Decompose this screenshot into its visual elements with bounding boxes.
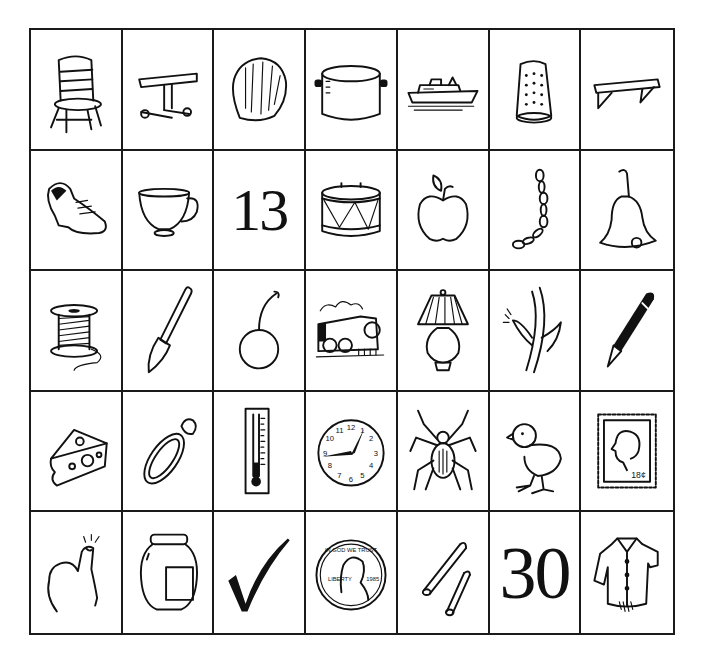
cup-icon [129,162,207,258]
bench-icon [129,41,207,137]
stamp-icon: 18¢ [588,403,666,499]
apple-icon [404,162,482,258]
ship-icon [404,41,482,137]
pot-icon [312,41,390,137]
cell-number-30: 30 [490,512,582,633]
cell-clock: 1212 345 678 91011 [306,392,398,513]
svg-text:12: 12 [347,423,356,432]
cell-spool [31,271,123,392]
cell-number-13: 13 [214,151,306,272]
cell-bell [581,151,673,272]
shirt-icon [588,525,666,621]
stamp-value: 18¢ [631,470,646,480]
cell-bench [123,30,215,151]
cell-ring [123,392,215,513]
cell-shelf [581,30,673,151]
cell-chair [31,30,123,151]
cell-spider [398,392,490,513]
shelf-icon [588,41,666,137]
svg-text:6: 6 [349,475,353,484]
picture-grid: 13 [29,28,675,635]
cell-shirt [581,512,673,633]
ring-icon [129,403,207,499]
cell-chain [490,151,582,272]
cell-cup [123,151,215,272]
svg-text:11: 11 [335,426,343,435]
jar-icon [129,525,207,621]
cell-lamp [398,271,490,392]
cell-drum [306,151,398,272]
cell-pen [581,271,673,392]
chick-icon [495,403,573,499]
cell-thumb [31,512,123,633]
spider-icon [404,403,482,499]
svg-text:2: 2 [369,434,373,443]
cell-shell [214,30,306,151]
svg-text:3: 3 [374,449,378,458]
cell-thermometer [214,392,306,513]
shovel-icon [129,282,207,378]
thorn-icon [495,282,573,378]
cell-thimble [490,30,582,151]
svg-text:1: 1 [360,426,364,435]
cherry-icon [220,282,298,378]
thermometer-icon [220,403,298,499]
drum-icon [312,162,390,258]
shoe-icon [37,162,115,258]
cell-apple [398,151,490,272]
svg-text:10: 10 [326,434,335,443]
cheese-icon [37,403,115,499]
penny-icon: IN GOD WE TRUST LIBERTY 1985 [312,525,390,621]
cell-checkmark [214,512,306,633]
svg-text:8: 8 [328,461,332,470]
cell-thorn [490,271,582,392]
svg-text:5: 5 [360,471,364,480]
coin-year: 1985 [366,575,379,581]
cell-ship [398,30,490,151]
cell-cheese [31,392,123,513]
shell-icon [220,41,298,137]
train-icon [312,282,390,378]
thimble-icon [495,41,573,137]
number-30: 30 [499,536,569,610]
cell-cherry [214,271,306,392]
coin-motto: IN GOD WE TRUST [325,547,377,553]
cell-shovel [123,271,215,392]
checkmark-icon [220,525,298,621]
cell-shoe [31,151,123,272]
bell-icon [588,162,666,258]
coin-liberty: LIBERTY [328,575,352,581]
spool-icon [37,282,115,378]
svg-text:7: 7 [337,471,341,480]
cell-penny: IN GOD WE TRUST LIBERTY 1985 [306,512,398,633]
cell-jar [123,512,215,633]
cell-chick [490,392,582,513]
chair-icon [37,41,115,137]
pen-icon [588,282,666,378]
cell-pot [306,30,398,151]
chain-icon [495,162,573,258]
number-13: 13 [231,180,287,240]
thumb-icon [37,525,115,621]
lamp-icon [404,282,482,378]
cell-stamp: 18¢ [581,392,673,513]
svg-text:4: 4 [369,461,374,470]
straws-icon [404,525,482,621]
clock-icon: 1212 345 678 91011 [312,403,390,499]
cell-straws [398,512,490,633]
cell-train [306,271,398,392]
